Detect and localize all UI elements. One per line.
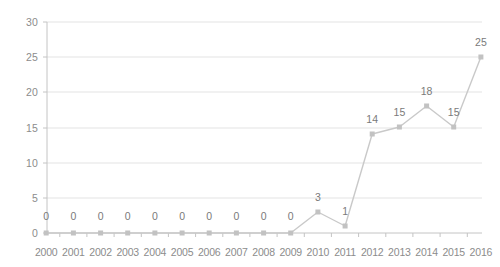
data-label: 0 xyxy=(172,211,192,222)
chart-canvas xyxy=(0,0,500,267)
data-label: 25 xyxy=(469,37,493,48)
data-label: 3 xyxy=(308,192,328,203)
line-chart: 30 25 20 15 10 5 0 2000 2001 2002 2003 2… xyxy=(0,0,500,267)
y-tick-label: 15 xyxy=(12,123,38,134)
y-tick-label: 30 xyxy=(12,17,38,28)
data-label: 18 xyxy=(415,86,439,97)
y-tick-label: 25 xyxy=(12,52,38,63)
data-label: 0 xyxy=(281,211,301,222)
data-label: 0 xyxy=(145,211,165,222)
data-markers xyxy=(44,55,484,236)
x-tick-label: 2016 xyxy=(465,246,497,258)
gridlines xyxy=(47,22,482,198)
y-tick-label: 0 xyxy=(12,228,38,239)
y-tick-label: 5 xyxy=(12,193,38,204)
data-label: 0 xyxy=(63,211,83,222)
y-axis-ticks xyxy=(43,22,47,233)
data-label: 0 xyxy=(226,211,246,222)
data-line-series xyxy=(46,57,481,233)
y-tick-label: 20 xyxy=(12,87,38,98)
y-tick-label: 10 xyxy=(12,158,38,169)
data-label: 0 xyxy=(254,211,274,222)
data-label: 15 xyxy=(442,107,466,118)
data-label: 0 xyxy=(36,211,56,222)
data-label: 14 xyxy=(360,114,384,125)
data-label: 15 xyxy=(387,107,411,118)
data-label: 0 xyxy=(199,211,219,222)
data-label: 0 xyxy=(118,211,138,222)
data-label: 0 xyxy=(91,211,111,222)
data-label: 1 xyxy=(335,206,355,217)
